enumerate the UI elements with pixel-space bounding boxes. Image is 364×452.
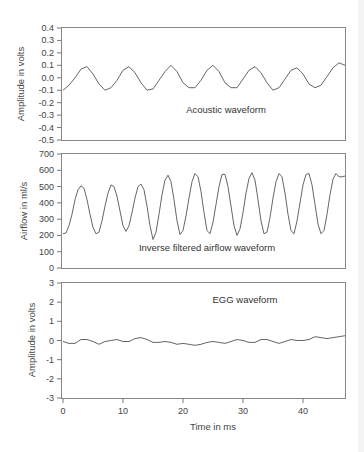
airflow-panel: 7006005004003002001000 Inverse filtered … [18, 149, 346, 273]
egg-y-axis-label: Amplitude in volts [26, 303, 37, 378]
x-tick-label: 0 [60, 406, 65, 416]
acoustic-plot-frame [62, 28, 346, 141]
egg-y-tick-label: 3 [49, 278, 54, 288]
acoustic-panel: 0.40.30.20.10.0-0.1-0.2-0.3-0.4-0.5 Acou… [15, 23, 346, 145]
egg-y-tick-label: 0 [49, 336, 54, 346]
acoustic-y-tick-label: 0.2 [41, 48, 54, 58]
egg-y-tick-label: 1 [49, 316, 54, 326]
acoustic-y-axis-label: Amplitude in volts [15, 47, 26, 122]
egg-y-ticks: 3210-1-2-3 [46, 278, 62, 403]
acoustic-y-tick-label: -0.1 [38, 85, 54, 95]
x-tick-label: 40 [298, 406, 308, 416]
airflow-panel-label: Inverse filtered airflow waveform [139, 242, 275, 253]
airflow-y-tick-label: 300 [39, 214, 54, 224]
x-tick-label: 30 [238, 406, 248, 416]
egg-y-tick-label: -1 [46, 355, 54, 365]
egg-y-tick-label: -3 [46, 393, 54, 403]
airflow-waveform-line [63, 173, 345, 240]
time-x-ticks: 010203040 [60, 399, 308, 417]
egg-y-tick-label: -2 [46, 374, 54, 384]
airflow-y-axis-label: Airflow in ml/s [18, 181, 29, 240]
egg-y-tick-label: 2 [49, 297, 54, 307]
airflow-y-tick-label: 200 [39, 230, 54, 240]
waveform-figure: 0.40.30.20.10.0-0.1-0.2-0.3-0.4-0.5 Acou… [0, 0, 364, 452]
airflow-y-tick-label: 600 [39, 165, 54, 175]
x-tick-label: 10 [118, 406, 128, 416]
airflow-y-tick-label: 0 [49, 263, 54, 273]
acoustic-y-tick-label: 0.1 [41, 60, 54, 70]
acoustic-y-tick-label: 0.0 [41, 73, 54, 83]
acoustic-panel-label: Acoustic waveform [186, 104, 266, 115]
acoustic-y-tick-label: 0.3 [41, 35, 54, 45]
acoustic-y-tick-label: -0.3 [38, 110, 54, 120]
acoustic-y-tick-label: -0.2 [38, 98, 54, 108]
airflow-y-tick-label: 500 [39, 182, 54, 192]
acoustic-y-tick-label: -0.4 [38, 123, 54, 133]
airflow-y-tick-label: 400 [39, 198, 54, 208]
egg-panel-label: EGG waveform [213, 294, 278, 305]
airflow-y-tick-label: 700 [39, 149, 54, 159]
egg-waveform-line [63, 336, 345, 346]
acoustic-waveform-line [63, 63, 345, 90]
x-axis-label: Time in ms [190, 421, 236, 432]
x-tick-label: 20 [178, 406, 188, 416]
airflow-y-tick-label: 100 [39, 247, 54, 257]
airflow-y-ticks: 7006005004003002001000 [39, 149, 62, 273]
acoustic-y-tick-label: -0.5 [38, 135, 54, 145]
acoustic-y-ticks: 0.40.30.20.10.0-0.1-0.2-0.3-0.4-0.5 [38, 23, 61, 145]
egg-panel: 3210-1-2-3 010203040 EGG waveform Amplit… [26, 278, 346, 432]
acoustic-y-tick-label: 0.4 [41, 23, 54, 33]
